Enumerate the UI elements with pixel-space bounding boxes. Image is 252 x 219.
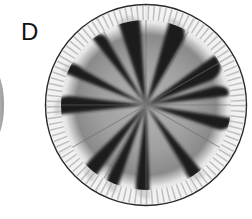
colony-body [46, 5, 246, 205]
colony-image [0, 0, 252, 219]
